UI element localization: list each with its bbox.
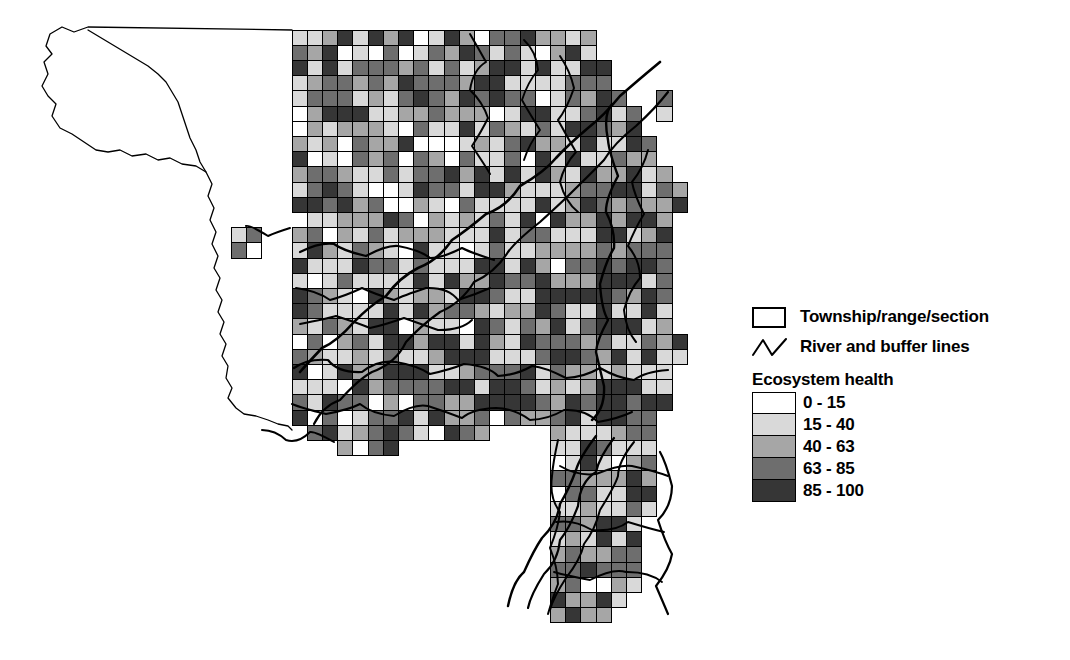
grid-cell xyxy=(505,380,520,395)
grid-cell xyxy=(581,592,596,607)
grid-cell xyxy=(414,106,429,121)
grid-cell xyxy=(353,197,368,212)
grid-cell xyxy=(231,228,246,243)
grid-cell xyxy=(657,334,672,349)
grid-cell xyxy=(490,60,505,75)
grid-cell xyxy=(429,45,444,60)
grid-cell xyxy=(414,212,429,227)
grid-cell xyxy=(322,197,337,212)
grid-cell xyxy=(383,106,398,121)
grid-cell xyxy=(368,167,383,182)
grid-cell xyxy=(383,152,398,167)
grid-cell xyxy=(353,425,368,440)
grid-cell xyxy=(353,152,368,167)
grid-cell xyxy=(353,136,368,151)
grid-cell xyxy=(581,395,596,410)
grid-cell xyxy=(338,228,353,243)
grid-cell xyxy=(611,592,626,607)
grid-cell xyxy=(398,197,413,212)
grid-cell xyxy=(490,212,505,227)
grid-cell xyxy=(626,547,641,562)
grid-cell xyxy=(566,258,581,273)
grid-cell xyxy=(626,486,641,501)
grid-cell xyxy=(474,60,489,75)
grid-cell xyxy=(429,380,444,395)
grid-cell xyxy=(444,425,459,440)
grid-cell xyxy=(429,334,444,349)
grid-cell xyxy=(535,182,550,197)
grid-cell xyxy=(657,380,672,395)
legend-ramp-swatch xyxy=(752,414,796,436)
grid-cell xyxy=(520,212,535,227)
grid-cell xyxy=(307,197,322,212)
grid-cell xyxy=(383,60,398,75)
grid-cell xyxy=(626,577,641,592)
grid-cell xyxy=(383,167,398,182)
grid-cell xyxy=(535,45,550,60)
grid-cell xyxy=(322,136,337,151)
grid-cell xyxy=(566,440,581,455)
grid-cell xyxy=(414,380,429,395)
grid-cell xyxy=(535,258,550,273)
grid-cell xyxy=(368,136,383,151)
grid-cell xyxy=(581,608,596,623)
grid-cell xyxy=(581,243,596,258)
grid-cell xyxy=(626,152,641,167)
grid-cell xyxy=(581,136,596,151)
grid-cell xyxy=(414,167,429,182)
river-line xyxy=(656,452,672,614)
grid-cell xyxy=(581,76,596,91)
grid-cell xyxy=(307,167,322,182)
grid-cell xyxy=(642,167,657,182)
grid-cell xyxy=(429,30,444,45)
grid-cell xyxy=(566,273,581,288)
grid-cell xyxy=(338,440,353,455)
grid-cell xyxy=(596,76,611,91)
grid-cell xyxy=(490,228,505,243)
grid-cell xyxy=(444,136,459,151)
grid-cell xyxy=(550,91,565,106)
grid-cell xyxy=(474,334,489,349)
legend-ramp-label: 63 - 85 xyxy=(796,458,855,480)
grid-cell xyxy=(444,197,459,212)
legend-ramp-swatch xyxy=(752,392,796,414)
grid-cell xyxy=(657,212,672,227)
grid-cell xyxy=(398,425,413,440)
grid-cell xyxy=(292,334,307,349)
grid-cell xyxy=(626,228,641,243)
grid-cell xyxy=(642,182,657,197)
grid-cell xyxy=(322,228,337,243)
grid-cell xyxy=(353,380,368,395)
grid-cell xyxy=(657,106,672,121)
grid-cell xyxy=(535,349,550,364)
grid-cell xyxy=(581,258,596,273)
grid-cell xyxy=(414,395,429,410)
grid-cell xyxy=(368,182,383,197)
grid-cell xyxy=(353,167,368,182)
grid-cell xyxy=(672,197,687,212)
grid-cell xyxy=(353,334,368,349)
grid-cell xyxy=(353,258,368,273)
grid-cell xyxy=(596,532,611,547)
grid-cell xyxy=(444,380,459,395)
grid-cell xyxy=(626,532,641,547)
grid-cell xyxy=(414,91,429,106)
grid-cell xyxy=(535,243,550,258)
grid-cell xyxy=(338,273,353,288)
grid-cell xyxy=(444,334,459,349)
grid-cell xyxy=(611,547,626,562)
grid-cell xyxy=(642,471,657,486)
grid-cell xyxy=(611,167,626,182)
county-boundary-west xyxy=(88,30,206,172)
grid-cell xyxy=(490,45,505,60)
grid-cell xyxy=(398,380,413,395)
grid-cell xyxy=(414,334,429,349)
grid-cell xyxy=(338,410,353,425)
grid-cell xyxy=(490,273,505,288)
grid-cell xyxy=(429,425,444,440)
grid-cell xyxy=(657,304,672,319)
grid-cell xyxy=(611,562,626,577)
grid-cell xyxy=(459,106,474,121)
grid-cell xyxy=(398,91,413,106)
grid-cell xyxy=(642,486,657,501)
